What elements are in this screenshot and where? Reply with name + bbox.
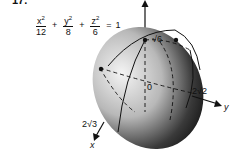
y-intercept-label: 2√2 bbox=[192, 86, 207, 96]
y-axis-label: y bbox=[224, 102, 229, 112]
origin-label: 0 bbox=[147, 82, 152, 92]
point bbox=[99, 67, 103, 71]
point bbox=[174, 38, 178, 42]
z-intercept-label: √6 bbox=[152, 34, 162, 44]
z-intercept-point bbox=[143, 38, 147, 42]
ellipsoid-figure bbox=[0, 0, 239, 150]
x-intercept-label: 2√3 bbox=[82, 119, 97, 129]
x-axis-label: x bbox=[90, 140, 95, 150]
